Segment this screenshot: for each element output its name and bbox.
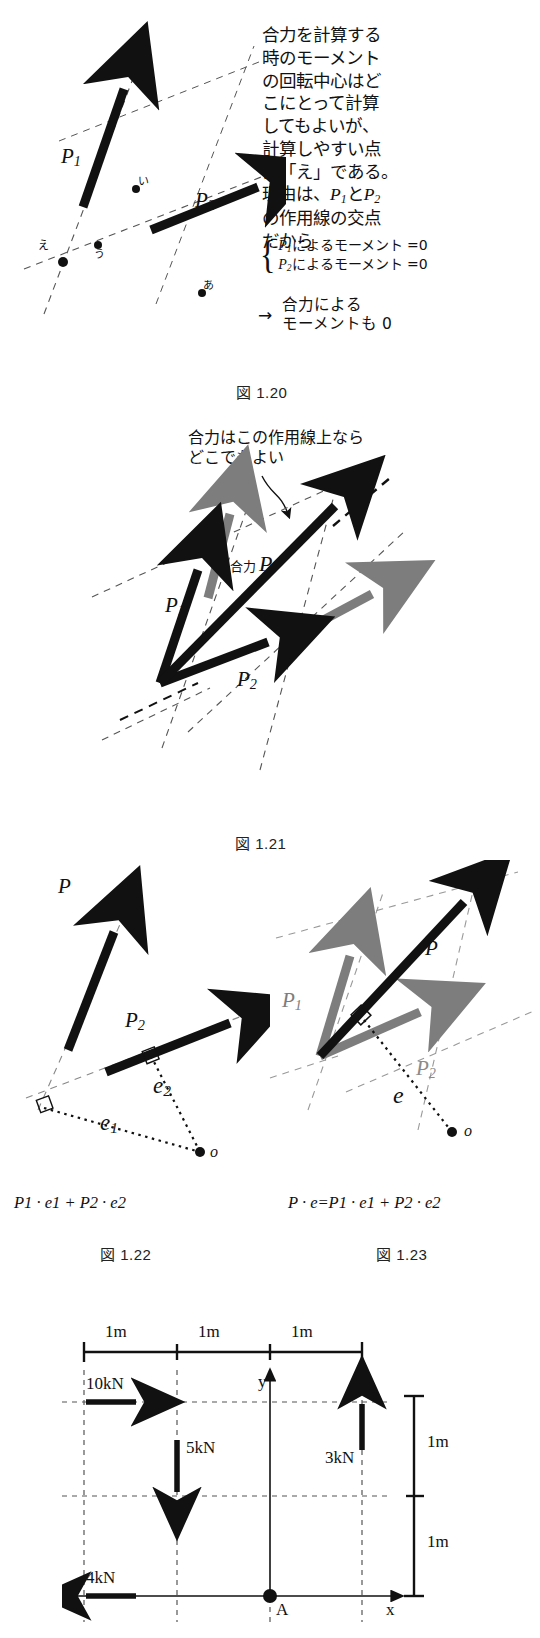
helper-line-2 xyxy=(156,46,254,304)
figure-1-21: 合力はこの作用線上なら どこでもよい xyxy=(0,420,540,860)
action-line-p2 xyxy=(24,172,274,269)
action-line-p xyxy=(270,1056,338,1078)
distance-line-e2 xyxy=(151,1056,200,1152)
distance-line-e xyxy=(364,1020,452,1132)
explanation-line: 計算しやすい点 xyxy=(262,138,434,161)
explanation-line: は「え」である。 xyxy=(262,161,434,184)
vector-p1 xyxy=(83,89,124,207)
figure-1-22-caption: 図 1.22 xyxy=(100,1243,151,1264)
point-e-dot xyxy=(58,257,68,267)
figure-1-23: P P1 P2 e o P · e=P1 · e1 + P2 · e2 図 1.… xyxy=(268,860,540,1280)
force-system-diagram xyxy=(62,1300,482,1630)
point-label-a: あ xyxy=(203,276,214,292)
explanation-line: 時のモーメント xyxy=(262,47,434,70)
conclusion-line-1: 合力による xyxy=(282,296,392,315)
vector-label-p2: P2 xyxy=(195,188,215,214)
callout-curve xyxy=(262,476,288,514)
left-brace: { xyxy=(260,239,275,271)
figure-1-22-equation: P1 · e1 + P2 · e2 xyxy=(14,1193,126,1213)
origin-label-o: o xyxy=(464,1122,472,1140)
helper-line-top xyxy=(276,872,518,938)
figure-1-20-caption: 図 1.20 xyxy=(236,381,287,402)
point-a-label: A xyxy=(276,1600,288,1620)
vector-p1-translated xyxy=(208,514,230,598)
vector-p2-translated xyxy=(290,594,372,638)
helper-line-bottom xyxy=(346,1010,536,1092)
force-label-5kn: 5kN xyxy=(186,1438,215,1458)
dimension-label-top-2: 1m xyxy=(198,1322,220,1342)
dimension-label-right-2: 1m xyxy=(427,1532,449,1552)
vector-label-p2: P2 xyxy=(125,1008,145,1034)
conclusion-line-2: モーメントも 0 xyxy=(282,315,392,334)
explanation-line: 合力を計算する xyxy=(262,24,434,47)
figure-1-23-diagram xyxy=(268,860,540,1190)
figure-1-22: P P2 e1 e2 o P1 · e1 + P2 · e2 図 1.22 xyxy=(0,860,270,1280)
moment-equation-p1: P1によるモーメント =0 xyxy=(278,236,427,255)
figure-1-20-moment-equations: { P1によるモーメント =0 P2によるモーメント =0 xyxy=(258,236,428,275)
figure-1-21-caption: 図 1.21 xyxy=(235,832,286,853)
vector-p xyxy=(68,932,114,1050)
resultant-label: 合力P xyxy=(230,551,272,577)
dimension-label-right-1: 1m xyxy=(427,1432,449,1452)
origin-point-o xyxy=(447,1127,457,1137)
distance-line-e1 xyxy=(44,1108,200,1152)
resultant-action-line-extension xyxy=(120,683,198,720)
vector-label-p2: P2 xyxy=(237,667,257,693)
explanation-line: してもよいが、 xyxy=(262,115,434,138)
distance-label-e1: e1 xyxy=(100,1110,118,1137)
point-a-marker xyxy=(263,1589,277,1603)
dimension-label-top-1: 1m xyxy=(105,1322,127,1342)
vector-label-p1: P1 xyxy=(282,988,302,1014)
figure-1-20: P1 P2 い う え あ 合力を計算する 時のモーメント の回転中心はど こに… xyxy=(0,0,540,400)
vector-label-p: P xyxy=(425,936,438,961)
point-label-u: う xyxy=(94,245,105,261)
figure-1-21-diagram xyxy=(90,430,510,830)
distance-label-e: e xyxy=(393,1082,404,1109)
force-label-3kn: 3kN xyxy=(325,1448,354,1468)
right-arrow-icon: → xyxy=(258,305,272,326)
resultant-action-line xyxy=(333,478,390,526)
helper-line-1 xyxy=(59,60,264,141)
figure-1-20-explanation: 合力を計算する 時のモーメント の回転中心はど こにとって計算 してもよいが、 … xyxy=(262,24,434,253)
explanation-line-reason: 理由は、P1とP2 xyxy=(262,183,434,207)
point-label-i: い xyxy=(138,172,149,188)
origin-point-o xyxy=(195,1147,205,1157)
x-axis-label: x xyxy=(386,1600,395,1620)
force-label-10kn: 10kN xyxy=(86,1374,124,1394)
figure-force-system: 1m 1m 1m 1m 1m 10kN 5kN 3kN 4kN y x A xyxy=(0,1300,540,1638)
right-angle-mark-e1 xyxy=(36,1096,53,1113)
figure-1-20-conclusion: → 合力による モーメントも 0 xyxy=(282,296,392,334)
y-axis-label: y xyxy=(258,1372,267,1392)
force-label-4kn: 4kN xyxy=(86,1568,115,1588)
helper-line-lower xyxy=(102,688,210,740)
figure-1-23-equation: P · e=P1 · e1 + P2 · e2 xyxy=(288,1193,441,1213)
explanation-line: の作用線の交点 xyxy=(262,207,434,230)
explanation-line: の回転中心はど xyxy=(262,70,434,93)
origin-label-o: o xyxy=(210,1143,218,1161)
vector-label-p1: P1 xyxy=(61,144,81,170)
dimension-label-top-3: 1m xyxy=(291,1322,313,1342)
explanation-line: こにとって計算 xyxy=(262,92,434,115)
vector-label-p2: P2 xyxy=(416,1056,436,1082)
figure-1-23-caption: 図 1.23 xyxy=(376,1243,427,1264)
moment-equation-p2: P2によるモーメント =0 xyxy=(278,255,427,274)
vector-label-p1: P1 xyxy=(165,593,185,619)
point-label-e: え xyxy=(38,236,49,252)
vector-label-p: P xyxy=(58,874,71,899)
distance-label-e2: e2 xyxy=(153,1073,171,1100)
